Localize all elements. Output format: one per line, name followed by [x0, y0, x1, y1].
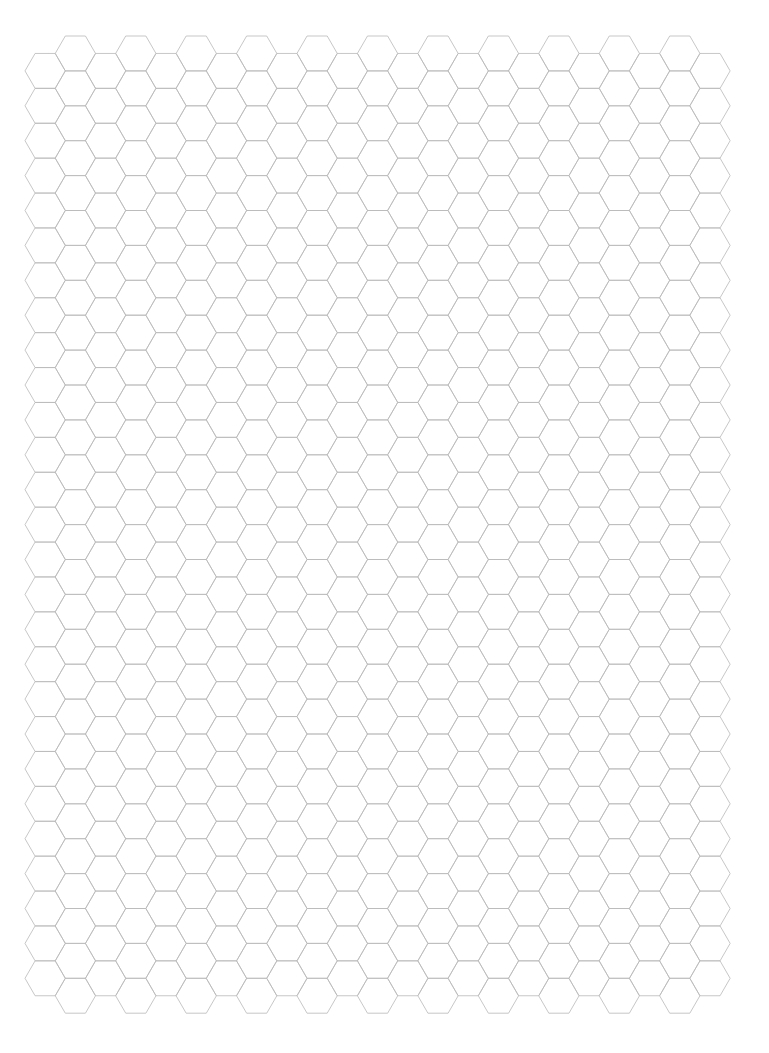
hex-grid-pattern	[0, 0, 769, 1053]
hexagon-cells	[25, 36, 730, 1013]
hex-graph-paper-page	[0, 0, 769, 1053]
